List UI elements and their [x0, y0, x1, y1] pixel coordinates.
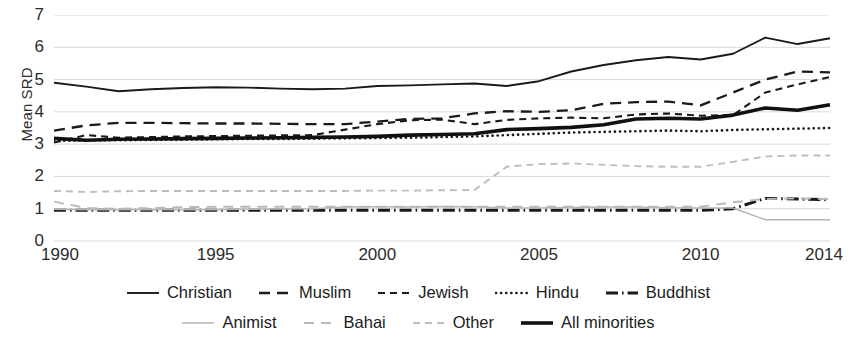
solid-line-swatch	[126, 286, 160, 300]
y-tick-label: 2	[18, 167, 44, 184]
legend-label: Hindu	[536, 283, 579, 302]
dash-dot-line-swatch	[605, 286, 639, 300]
light-dash-line-swatch	[412, 316, 446, 330]
legend-label: Christian	[167, 283, 232, 302]
legend-item-bahai[interactable]: Bahai	[303, 313, 386, 332]
series-line-other	[54, 155, 830, 191]
legend-item-other[interactable]: Other	[412, 313, 494, 332]
legend-label: Other	[453, 313, 494, 332]
y-tick-label: 7	[18, 6, 44, 23]
x-tick-label: 2005	[504, 246, 574, 263]
x-tick-label: 2014	[789, 246, 848, 263]
series-line-muslim	[54, 72, 830, 131]
x-tick-label: 2010	[666, 246, 736, 263]
legend-row-1: ChristianMuslimJewishHinduBuddhist	[0, 283, 836, 302]
y-tick-label: 6	[18, 38, 44, 55]
legend-item-animist[interactable]: Animist	[181, 313, 276, 332]
legend-label: Muslim	[299, 283, 351, 302]
legend-label: Buddhist	[646, 283, 710, 302]
legend-item-christian[interactable]: Christian	[126, 283, 232, 302]
dash-line-swatch	[377, 286, 411, 300]
y-tick-label: 1	[18, 200, 44, 217]
x-tick-label: 1990	[25, 246, 95, 263]
y-tick-label: 3	[18, 135, 44, 152]
legend-label: Animist	[222, 313, 276, 332]
legend-item-all-minorities[interactable]: All minorities	[520, 313, 655, 332]
legend-item-jewish[interactable]: Jewish	[377, 283, 468, 302]
y-tick-label: 5	[18, 71, 44, 88]
light-solid-line-swatch	[181, 316, 215, 330]
legend-item-hindu[interactable]: Hindu	[495, 283, 579, 302]
x-tick-label: 2000	[342, 246, 412, 263]
legend-label: Bahai	[344, 313, 386, 332]
legend-item-muslim[interactable]: Muslim	[258, 283, 351, 302]
legend-label: Jewish	[418, 283, 468, 302]
thick-solid-line-swatch	[520, 316, 554, 330]
legend-row-2: AnimistBahaiOtherAll minorities	[0, 313, 836, 332]
legend-label: All minorities	[561, 313, 655, 332]
light-long-dash-line-swatch	[303, 316, 337, 330]
chart-svg	[54, 15, 836, 245]
long-dash-line-swatch	[258, 286, 292, 300]
series-line-christian	[54, 38, 830, 92]
dotted-line-swatch	[495, 286, 529, 300]
x-tick-label: 1995	[181, 246, 251, 263]
y-tick-label: 4	[18, 103, 44, 120]
chart-legend: ChristianMuslimJewishHinduBuddhist Animi…	[0, 283, 836, 332]
plot-area	[54, 15, 830, 241]
legend-item-buddhist[interactable]: Buddhist	[605, 283, 710, 302]
